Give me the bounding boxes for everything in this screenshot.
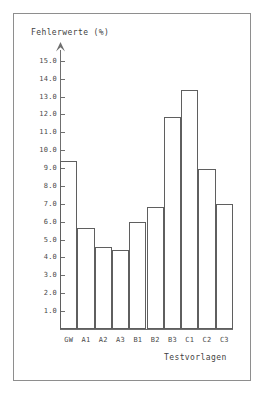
y-axis-tick-label: 12.0 [39, 110, 57, 118]
x-axis-tick-label: GW [60, 336, 77, 344]
chart-page: Fehlerwerte (%) 1.02.03.04.05.06.07.08.0… [0, 0, 266, 396]
bar [147, 207, 164, 329]
x-axis-tick-label: C3 [216, 336, 233, 344]
bar [77, 228, 94, 329]
bar [112, 250, 129, 329]
y-axis-tick-label: 9.0 [44, 164, 57, 172]
x-axis-tick-label: B1 [129, 336, 146, 344]
y-axis-tick-label: 15.0 [39, 57, 57, 65]
y-axis-tick-label: 10.0 [39, 146, 57, 154]
x-axis-tick-label: C2 [198, 336, 215, 344]
bar [60, 161, 77, 329]
x-axis-tick-label: C1 [181, 336, 198, 344]
x-axis-tick-label: A3 [112, 336, 129, 344]
bar [216, 204, 233, 329]
bar-series [60, 50, 233, 329]
y-axis-tick-label: 4.0 [44, 253, 57, 261]
y-axis-tick-label: 3.0 [44, 271, 57, 279]
y-axis-tick-label: 14.0 [39, 75, 57, 83]
x-axis-tick-label: A2 [95, 336, 112, 344]
bar [198, 169, 215, 329]
bar [164, 117, 181, 329]
y-axis-tick-label: 8.0 [44, 182, 57, 190]
bar [129, 222, 146, 329]
x-axis-tick-label: A1 [77, 336, 94, 344]
y-axis-tick-label: 13.0 [39, 93, 57, 101]
x-axis-tick-label: B2 [147, 336, 164, 344]
y-axis-tick-label: 1.0 [44, 307, 57, 315]
x-axis-title: Testvorlagen [164, 353, 227, 362]
bar [95, 247, 112, 329]
bar-chart: Fehlerwerte (%) 1.02.03.04.05.06.07.08.0… [0, 0, 266, 396]
x-axis-baseline [60, 329, 233, 330]
y-axis-tick-label: 6.0 [44, 218, 57, 226]
bar [181, 90, 198, 329]
y-axis-tick-label: 11.0 [39, 128, 57, 136]
y-axis-tick-label: 2.0 [44, 289, 57, 297]
x-axis-tick-label: B3 [164, 336, 181, 344]
y-axis-tick-label: 7.0 [44, 200, 57, 208]
y-axis-tick-label: 5.0 [44, 236, 57, 244]
y-axis-title: Fehlerwerte (%) [31, 28, 109, 37]
